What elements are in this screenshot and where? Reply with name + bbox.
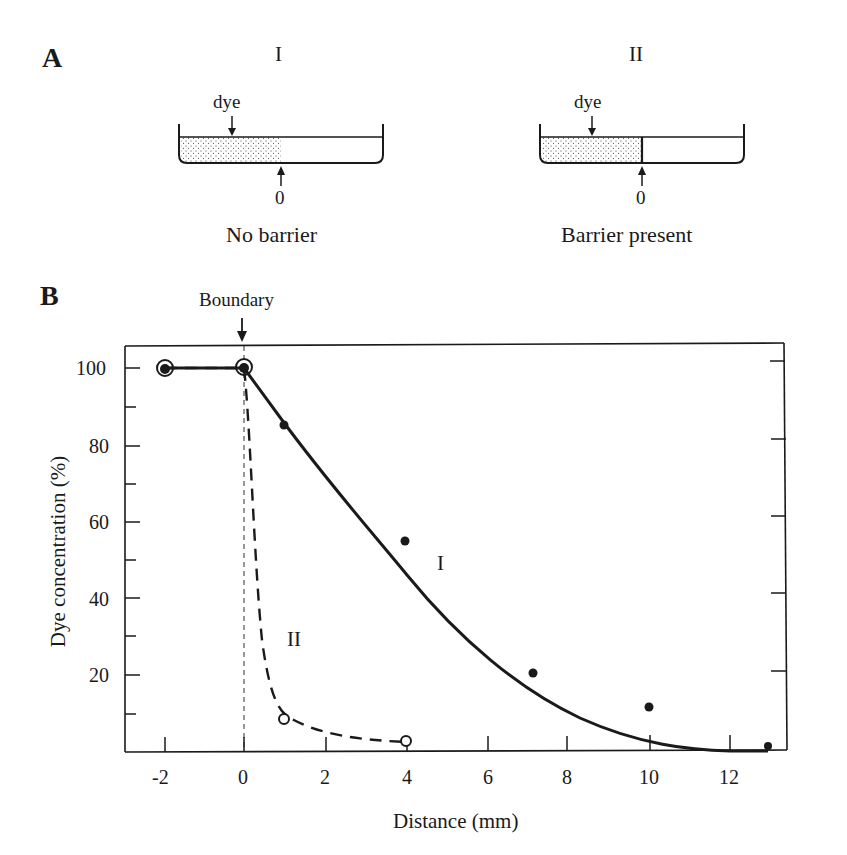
y-axis-title: Dye concentration (%) [46,452,71,652]
y-tick-80: 80 [89,435,109,458]
x-tick-4: 4 [402,766,412,789]
x-axis-ticks [165,735,730,752]
series-ii-points [157,359,411,746]
x-axis-title: Distance (mm) [393,809,518,834]
plot-frame [125,343,787,752]
curve-i-label: I [437,551,444,576]
series-i-points [160,363,772,750]
x-tick-10: 10 [639,766,659,789]
x-tick-2: 2 [320,766,330,789]
y-tick-100: 100 [76,357,106,380]
curve-ii-label: II [287,627,301,652]
x-tick-6: 6 [483,766,493,789]
y-tick-40: 40 [89,588,109,611]
dye-concentration-chart [0,0,847,855]
x-tick-12: 12 [719,766,739,789]
x-tick-8: 8 [562,766,572,789]
x-tick-0: 0 [238,766,248,789]
y-tick-20: 20 [89,664,109,687]
y-axis-ticks-right [770,361,786,671]
y-axis-ticks-left [125,368,140,714]
x-tick-neg2: -2 [152,766,169,789]
y-tick-60: 60 [89,511,109,534]
